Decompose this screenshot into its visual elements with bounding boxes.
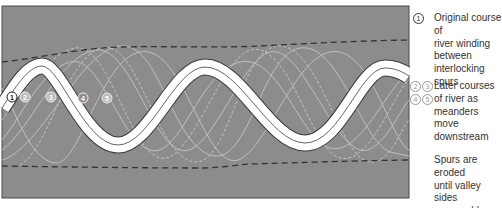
legend-later-text: Later courses of river as meanders move … (434, 80, 502, 144)
circled-number-2: 2 (410, 81, 421, 92)
circled-number-1: 1 (413, 13, 424, 24)
legend-markers-4-5: 45 (410, 93, 434, 106)
circled-number-4: 4 (410, 94, 421, 105)
legend-marker-1: 1 (413, 12, 425, 25)
svg-text:5: 5 (105, 95, 109, 102)
course-marker-1: 1 (7, 92, 17, 102)
svg-text:1: 1 (10, 94, 14, 101)
course-marker-2: 2 (20, 92, 30, 102)
legend-original-text: Original course of river winding between… (434, 12, 502, 89)
course-marker-5: 5 (102, 93, 112, 103)
legend-spurs-text: Spurs are eroded until valley sides are … (434, 154, 502, 208)
svg-text:2: 2 (23, 94, 27, 101)
legend: 1 Original course of river winding betwe… (410, 6, 502, 198)
course-marker-3: 3 (46, 92, 56, 102)
svg-text:4: 4 (81, 95, 85, 102)
svg-text:3: 3 (49, 94, 53, 101)
circled-number-3: 3 (422, 81, 433, 92)
course-marker-4: 4 (78, 93, 88, 103)
circled-number-5: 5 (422, 94, 433, 105)
legend-markers-2-3: 23 (410, 80, 434, 93)
